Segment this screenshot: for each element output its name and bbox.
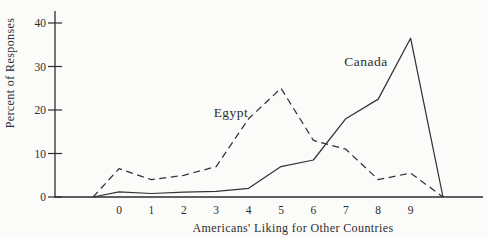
y-tick-label: 30 — [35, 61, 47, 73]
x-tick-label: 7 — [343, 204, 349, 216]
x-tick-label: 2 — [181, 204, 187, 216]
egypt-line — [93, 88, 443, 197]
chart-figure: 9876543210403020100 Percent of Responses… — [0, 0, 488, 237]
x-tick-label: 0 — [116, 204, 122, 216]
series-label-egypt: Egypt — [214, 105, 249, 120]
y-axis-title: Percent of Responses — [3, 18, 17, 129]
y-tick-label: 0 — [40, 191, 46, 203]
x-tick-label: 6 — [311, 204, 317, 216]
y-tick-label: 20 — [35, 104, 47, 116]
x-tick-label: 3 — [213, 204, 219, 216]
x-tick-label: 8 — [375, 204, 381, 216]
x-axis-title: Americans' Liking for Other Countries — [193, 221, 394, 235]
x-tick-label: 5 — [278, 204, 284, 216]
x-tick-label: 1 — [149, 204, 155, 216]
x-tick-label: 9 — [408, 204, 414, 216]
line-chart: 9876543210403020100 Percent of Responses… — [0, 0, 488, 237]
y-tick-label: 10 — [35, 148, 47, 160]
x-tick-label: 4 — [246, 204, 252, 216]
series-label-canada: Canada — [344, 54, 387, 69]
canada-line — [93, 38, 443, 197]
y-tick-label: 40 — [35, 17, 47, 29]
